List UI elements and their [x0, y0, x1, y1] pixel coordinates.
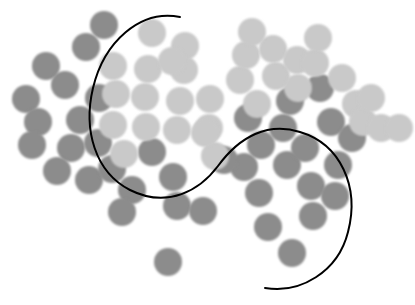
- data-point-1-0: [138, 19, 166, 47]
- data-point-0-1: [72, 33, 100, 61]
- data-point-0-8: [18, 131, 46, 159]
- data-point-0-17: [163, 192, 191, 220]
- data-point-1-9: [99, 111, 127, 139]
- data-point-1-1: [99, 52, 127, 80]
- data-point-1-26: [385, 114, 413, 142]
- data-point-1-8: [196, 85, 224, 113]
- data-point-0-18: [108, 198, 136, 226]
- data-point-1-10: [132, 113, 160, 141]
- data-point-0-11: [43, 157, 71, 185]
- data-point-0-32: [278, 239, 306, 267]
- data-point-0-35: [321, 182, 349, 210]
- data-point-0-6: [66, 106, 94, 134]
- data-point-0-34: [324, 151, 352, 179]
- data-point-1-15: [243, 90, 271, 118]
- data-point-1-6: [131, 83, 159, 111]
- data-point-1-21: [304, 24, 332, 52]
- data-point-0-16: [159, 163, 187, 191]
- data-point-0-28: [291, 134, 319, 162]
- data-point-0-3: [51, 71, 79, 99]
- data-point-1-27: [357, 84, 385, 112]
- data-point-1-29: [158, 47, 186, 75]
- data-point-0-31: [254, 213, 282, 241]
- data-point-1-22: [328, 64, 356, 92]
- data-point-1-13: [226, 66, 254, 94]
- data-point-1-31: [191, 119, 219, 147]
- data-point-1-32: [238, 18, 266, 46]
- data-point-0-20: [154, 248, 182, 276]
- data-point-1-19: [284, 74, 312, 102]
- data-point-1-28: [110, 140, 138, 168]
- data-point-1-20: [301, 49, 329, 77]
- data-point-0-15: [138, 138, 166, 166]
- data-point-1-7: [166, 87, 194, 115]
- data-point-0-22: [245, 179, 273, 207]
- data-point-1-11: [163, 116, 191, 144]
- data-point-0-19: [189, 197, 217, 225]
- data-point-1-5: [102, 80, 130, 108]
- data-point-0-25: [269, 114, 297, 142]
- scatter-plot-figure: [0, 0, 415, 305]
- data-point-0-30: [299, 202, 327, 230]
- data-points-layer: [0, 0, 415, 305]
